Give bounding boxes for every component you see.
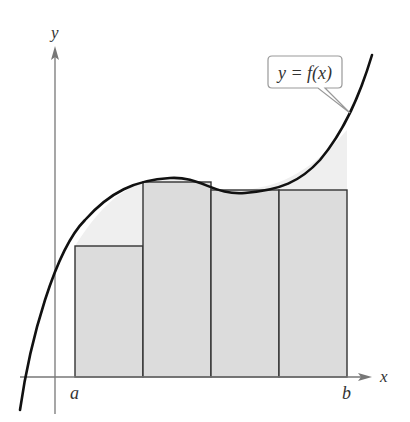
riemann-sum-figure: y = f(x) y x a b [0,0,410,422]
rectangle-1 [75,246,143,377]
rectangle-4 [279,190,347,377]
callout-label: y = f(x) [276,63,332,84]
rectangle-2 [143,182,211,377]
function-callout: y = f(x) [268,56,350,113]
interval-start-label: a [70,383,79,403]
y-axis-label: y [49,23,59,42]
interval-end-label: b [342,383,351,403]
rectangle-3 [211,190,279,377]
x-axis-label: x [379,367,388,386]
